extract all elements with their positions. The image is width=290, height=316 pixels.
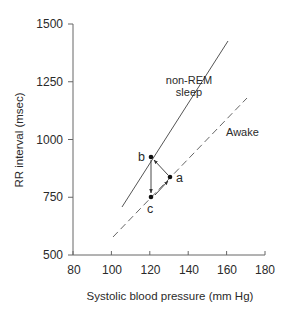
nonrem-sleep-line [122,41,228,207]
awake-label: Awake [226,126,259,138]
x-axis: 80 100 120 140 160 180 Systolic blood pr… [67,251,275,302]
arrow-a-to-b [154,160,168,175]
y-tick-label: 1000 [36,133,63,147]
x-tick-label: 120 [140,263,160,277]
chart: 1500 1250 1000 750 500 RR interval (msec… [0,0,290,316]
x-tick-label: 140 [179,263,199,277]
x-tick-label: 80 [67,263,81,277]
point-b-label: b [138,150,145,164]
nonrem-label: non-REM [166,74,212,86]
awake-line [113,98,247,237]
point-c-label: c [147,202,153,216]
y-tick-label: 1500 [36,17,63,31]
point-c [149,195,154,200]
x-tick-label: 160 [217,263,237,277]
x-axis-label: Systolic blood pressure (mm Hg) [87,290,254,302]
y-tick-label: 750 [43,190,63,204]
point-b [149,155,154,160]
x-tick-label: 100 [102,263,122,277]
arrow-c-to-a [155,181,168,195]
y-tick-label: 500 [43,248,63,262]
nonrem-label-sleep: sleep [176,86,202,98]
point-a [168,175,173,180]
y-axis: 1500 1250 1000 750 500 RR interval (msec… [13,17,73,262]
y-axis-label: RR interval (msec) [13,92,25,187]
x-tick-label: 180 [255,263,275,277]
point-a-label: a [176,171,183,185]
y-tick-label: 1250 [36,75,63,89]
